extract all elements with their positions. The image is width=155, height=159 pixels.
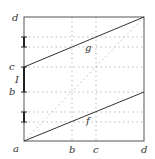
interval-map-diagram: d c I b a b c d g f [0, 0, 155, 159]
label-x-a: a [13, 143, 19, 154]
label-y-c: c [9, 61, 15, 72]
line-f [24, 92, 144, 141]
label-x-d: d [141, 144, 147, 155]
line-g [24, 17, 144, 67]
label-interval-I: I [14, 74, 20, 85]
dotted-guides [24, 17, 144, 141]
label-g: g [85, 42, 91, 53]
label-x-b: b [69, 144, 75, 155]
label-y-b: b [9, 86, 15, 97]
label-x-c: c [93, 144, 99, 155]
label-f: f [85, 115, 92, 126]
label-y-d: d [12, 12, 18, 23]
